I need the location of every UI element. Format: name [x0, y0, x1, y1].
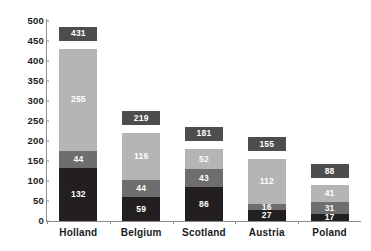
bar-segment[interactable]: 255	[59, 49, 97, 151]
bar-segment-value-label: 17	[325, 213, 335, 222]
bar-segment-value-label: 132	[71, 190, 86, 199]
y-axis-tick-label: 150	[0, 156, 44, 166]
bar-stack[interactable]: 864352	[185, 149, 223, 221]
bar-segment-value-label: 112	[260, 177, 274, 186]
bar-segment[interactable]: 27	[248, 210, 286, 221]
y-axis-tick-label: 450	[0, 36, 44, 46]
bars-layer: 1324425543159441162198643521812716112155…	[47, 21, 361, 221]
bar-segment[interactable]: 59	[122, 197, 160, 221]
x-axis-category-label: Poland	[293, 228, 367, 238]
y-axis-tick-label: 250	[0, 116, 44, 126]
bar-segment[interactable]: 31	[311, 202, 349, 214]
bar-segment-value-label: 52	[199, 155, 209, 164]
bar-stack[interactable]: 13244255	[59, 49, 97, 221]
y-axis-tick-label: 0	[0, 216, 44, 226]
bar-total-value-label: 155	[259, 140, 274, 149]
bar-segment-value-label: 43	[199, 174, 209, 183]
bar-total-badge: 181	[185, 127, 223, 141]
bar-segment[interactable]: 16	[248, 204, 286, 210]
y-axis-tick-label: 50	[0, 196, 44, 206]
bar-segment-value-label: 86	[199, 200, 209, 209]
bar-segment[interactable]: 112	[248, 159, 286, 204]
bar-segment[interactable]: 41	[311, 185, 349, 201]
stacked-bar-chart: 500450400350300250200150100500 132442554…	[0, 0, 371, 251]
bar-segment[interactable]: 44	[59, 151, 97, 169]
y-axis-tick-label: 200	[0, 136, 44, 146]
bar-segment-value-label: 16	[262, 203, 272, 212]
bar-segment[interactable]: 116	[122, 133, 160, 179]
bar-stack[interactable]: 5944116	[122, 133, 160, 221]
bar-segment[interactable]: 43	[185, 169, 223, 186]
y-axis-tick-label: 100	[0, 176, 44, 186]
y-axis-tick-label: 350	[0, 76, 44, 86]
bar-segment-value-label: 44	[73, 155, 83, 164]
bar-segment[interactable]: 17	[311, 214, 349, 221]
bar-segment-value-label: 31	[325, 204, 335, 213]
bar-total-value-label: 181	[197, 129, 212, 138]
y-axis-tick-label: 400	[0, 56, 44, 66]
y-axis-tick-label: 300	[0, 96, 44, 106]
x-axis-tick-mark	[110, 221, 111, 224]
x-axis-line	[46, 221, 361, 222]
bar-segment-value-label: 41	[325, 189, 335, 198]
bar-segment[interactable]: 44	[122, 180, 160, 198]
x-axis-tick-mark	[47, 221, 48, 224]
bar-total-value-label: 88	[325, 167, 335, 176]
bar-segment-value-label: 255	[71, 95, 86, 104]
x-axis-tick-mark	[173, 221, 174, 224]
bar-total-badge: 88	[311, 164, 349, 178]
bar-total-badge: 431	[59, 27, 97, 41]
x-axis-tick-mark	[235, 221, 236, 224]
bar-segment[interactable]: 86	[185, 187, 223, 221]
bar-segment-value-label: 116	[134, 152, 148, 161]
bar-total-badge: 219	[122, 111, 160, 125]
bar-segment-value-label: 44	[136, 184, 146, 193]
y-axis-tick-label: 500	[0, 16, 44, 26]
bar-segment-value-label: 59	[136, 205, 146, 214]
bar-segment-value-label: 27	[262, 211, 272, 220]
bar-segment[interactable]: 52	[185, 149, 223, 170]
bar-total-badge: 155	[248, 137, 286, 151]
bar-total-value-label: 219	[134, 114, 149, 123]
bar-stack[interactable]: 2716112	[248, 159, 286, 221]
bar-stack[interactable]: 173141	[311, 185, 349, 221]
bar-segment[interactable]: 132	[59, 168, 97, 221]
bar-total-value-label: 431	[71, 29, 86, 38]
x-axis-tick-mark	[298, 221, 299, 224]
